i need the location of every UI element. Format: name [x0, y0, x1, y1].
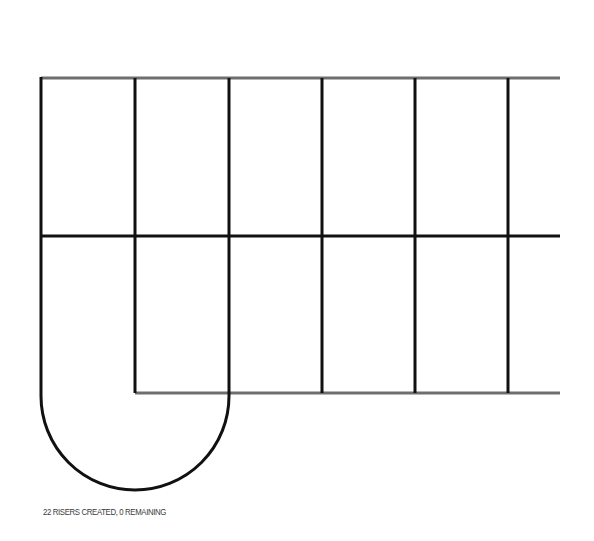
stair-plan-drawing: [0, 0, 594, 541]
status-message: 22 RISERS CREATED, 0 REMAINING: [43, 507, 166, 517]
landing-arc: [41, 396, 229, 490]
